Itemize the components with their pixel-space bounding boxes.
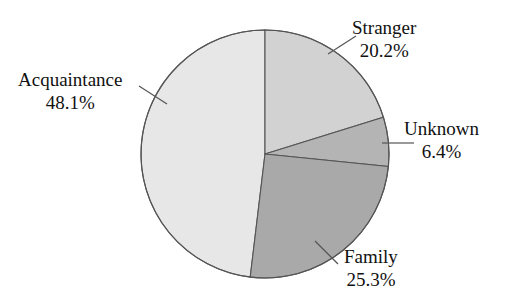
- pie-label-acquaintance-name: Acquaintance: [18, 68, 122, 91]
- pie-label-unknown-value: 6.4%: [404, 140, 479, 163]
- pie-label-acquaintance-value: 48.1%: [18, 91, 122, 114]
- pie-label-family-name: Family: [344, 245, 398, 268]
- pie-chart-figure: Stranger 20.2% Acquaintance 48.1% Unknow…: [0, 0, 510, 304]
- pie-label-family: Family 25.3%: [344, 245, 398, 291]
- pie-label-acquaintance: Acquaintance 48.1%: [18, 68, 122, 114]
- pie-label-stranger-name: Stranger: [352, 16, 416, 39]
- pie-label-family-value: 25.3%: [344, 268, 398, 291]
- pie-label-unknown: Unknown 6.4%: [404, 117, 479, 163]
- pie-label-stranger-value: 20.2%: [352, 39, 416, 62]
- pie-label-unknown-name: Unknown: [404, 117, 479, 140]
- pie-label-stranger: Stranger 20.2%: [352, 16, 416, 62]
- pie-slice-acquaintance[interactable]: [141, 30, 265, 277]
